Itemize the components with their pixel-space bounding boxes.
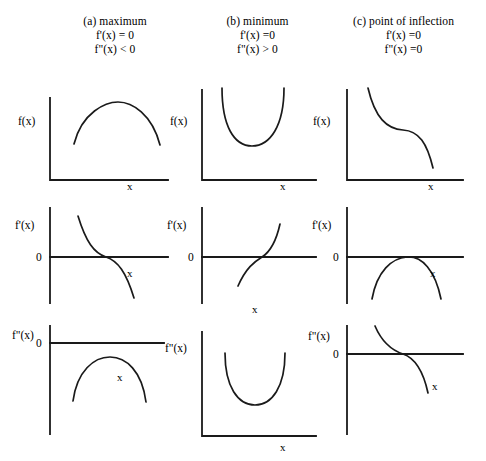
plot-b-dfx bbox=[200, 208, 318, 303]
zerolabel-b-dfx: 0 bbox=[188, 251, 194, 263]
plot-c-ddfx bbox=[345, 326, 465, 436]
ylabel-a-ddfx: f"(x) bbox=[12, 329, 34, 341]
plot-c-fx bbox=[345, 88, 465, 182]
xlabel-c-fx: x bbox=[428, 180, 434, 192]
plot-c-dfx bbox=[345, 208, 465, 303]
plot-a-fx-svg bbox=[48, 96, 170, 182]
column-a-heading: (a) maximum bbox=[40, 14, 190, 28]
ylabel-a-dfx: f'(x) bbox=[15, 219, 34, 231]
plot-c-ddfx-svg bbox=[345, 326, 465, 436]
column-b-heading: (b) minimum bbox=[185, 14, 330, 28]
plot-c-dfx-svg bbox=[345, 208, 465, 303]
xlabel-a-ddfx: x bbox=[117, 371, 123, 383]
axes-b-ddfx bbox=[202, 332, 316, 436]
ylabel-b-dfx: f'(x) bbox=[167, 219, 186, 231]
xlabel-c-ddfx: x bbox=[432, 380, 438, 392]
column-header-c: (c) point of inflection f'(x) =0 f"(x) =… bbox=[326, 14, 481, 56]
column-c-condition-2: f"(x) =0 bbox=[326, 42, 481, 56]
plot-b-fx-svg bbox=[200, 88, 318, 182]
xlabel-b-dfx: x bbox=[252, 303, 258, 315]
xlabel-a-dfx: x bbox=[127, 267, 133, 279]
ylabel-b-fx: f(x) bbox=[170, 115, 187, 127]
plot-b-ddfx bbox=[200, 330, 318, 438]
column-a-condition-1: f'(x) = 0 bbox=[40, 28, 190, 42]
zerolabel-c-dfx: 0 bbox=[333, 251, 339, 263]
plot-a-dfx-svg bbox=[48, 208, 170, 303]
plot-b-ddfx-svg bbox=[200, 330, 318, 438]
column-c-heading: (c) point of inflection bbox=[326, 14, 481, 28]
column-a-condition-2: f"(x) < 0 bbox=[40, 42, 190, 56]
axes-b-fx bbox=[202, 90, 316, 180]
plot-c-fx-svg bbox=[345, 88, 465, 182]
xlabel-b-fx: x bbox=[280, 180, 286, 192]
curve-b-ddfx bbox=[225, 353, 285, 405]
curve-b-fx bbox=[222, 88, 284, 146]
column-b-condition-2: f"(x) > 0 bbox=[185, 42, 330, 56]
ylabel-c-dfx: f'(x) bbox=[312, 219, 331, 231]
zerolabel-a-dfx: 0 bbox=[36, 251, 42, 263]
plot-a-ddfx bbox=[48, 326, 170, 436]
ylabel-b-ddfx: f"(x) bbox=[165, 342, 187, 354]
column-header-b: (b) minimum f'(x) =0 f"(x) > 0 bbox=[185, 14, 330, 56]
plot-a-fx bbox=[48, 96, 170, 182]
plot-a-ddfx-svg bbox=[48, 326, 170, 436]
ylabel-c-ddfx: f"(x) bbox=[308, 330, 330, 342]
curve-c-fx bbox=[368, 88, 433, 168]
plot-b-dfx-svg bbox=[200, 208, 318, 303]
xlabel-a-fx: x bbox=[127, 180, 133, 192]
zerolabel-c-ddfx: 0 bbox=[333, 348, 339, 360]
column-c-condition-1: f'(x) =0 bbox=[326, 28, 481, 42]
ylabel-c-fx: f(x) bbox=[313, 115, 330, 127]
zerolabel-a-ddfx: 0 bbox=[36, 337, 42, 349]
figure-canvas: (a) maximum f'(x) = 0 f"(x) < 0 (b) mini… bbox=[0, 0, 486, 461]
xlabel-b-ddfx: x bbox=[280, 441, 286, 453]
axes-a-fx bbox=[50, 98, 168, 180]
plot-a-dfx bbox=[48, 208, 170, 303]
curve-a-ddfx bbox=[73, 357, 146, 402]
curve-a-fx bbox=[74, 102, 160, 145]
curve-b-dfx bbox=[238, 224, 280, 286]
column-header-a: (a) maximum f'(x) = 0 f"(x) < 0 bbox=[40, 14, 190, 56]
xlabel-c-dfx: x bbox=[430, 267, 436, 279]
column-b-condition-1: f'(x) =0 bbox=[185, 28, 330, 42]
plot-b-fx bbox=[200, 88, 318, 182]
axes-c-fx bbox=[347, 90, 463, 180]
ylabel-a-fx: f(x) bbox=[18, 115, 35, 127]
curve-c-ddfx bbox=[375, 326, 428, 393]
